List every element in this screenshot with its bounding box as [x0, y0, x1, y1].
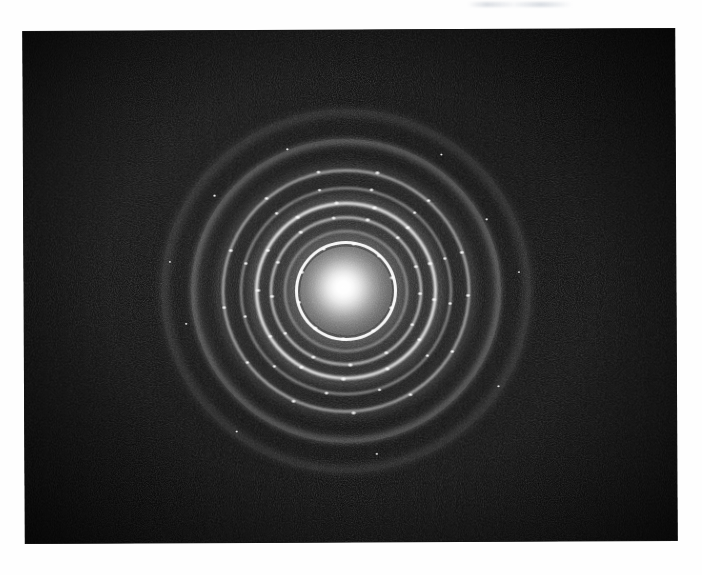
- diffraction-plate: [23, 28, 677, 543]
- photographic-plate-wrapper: [24, 30, 678, 544]
- emulsion-mottle: [23, 28, 677, 543]
- figure-root: [0, 0, 702, 575]
- scan-artifact-smudge: [468, 2, 572, 7]
